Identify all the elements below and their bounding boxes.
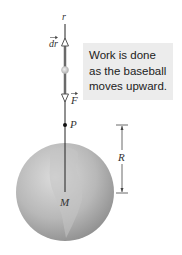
point-label-p: P	[70, 118, 77, 130]
caption-line: moves upward.	[89, 79, 168, 95]
radius-label-r: R	[118, 151, 125, 163]
caption-line: as the baseball	[89, 64, 168, 80]
point-p-marker	[63, 123, 67, 127]
mass-label-m: M	[60, 196, 69, 208]
diagram-canvas	[0, 0, 182, 255]
force-arrow-icon	[62, 94, 69, 102]
axis-label-r: r	[62, 11, 66, 22]
displacement-arrow-icon	[62, 38, 69, 46]
caption-box: Work is done as the baseball moves upwar…	[83, 43, 173, 100]
caption-line: Work is done	[89, 48, 168, 64]
baseball	[62, 67, 69, 74]
displacement-label: dr	[49, 38, 58, 49]
force-label: F	[71, 94, 78, 106]
